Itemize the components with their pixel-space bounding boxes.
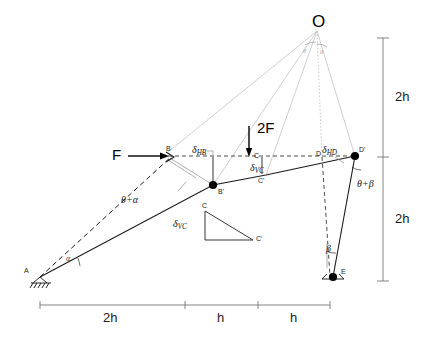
displacement-label-delta-HD: δHD: [322, 145, 337, 157]
force-label-2F: 2F: [257, 120, 275, 135]
member-Dprime-E: [333, 156, 355, 277]
force-F-group: [128, 153, 169, 160]
dim-right-label-0: 2h: [395, 90, 409, 103]
node-dot-Dprime: [351, 152, 359, 160]
node-dot-Bprime: [209, 181, 217, 189]
node-label-E: E: [341, 268, 346, 275]
node-label-Dprime: D': [359, 146, 365, 153]
dim-bottom-label-2: h: [290, 311, 297, 324]
diagram-svg: [0, 0, 427, 342]
inset-triangle: [205, 211, 253, 240]
inset-label-C: C: [202, 202, 207, 209]
dimension-right: [377, 38, 389, 281]
arc-alpha-at-A: [78, 258, 80, 266]
dimension-bottom: [40, 301, 330, 309]
deformed-geometry: [40, 156, 355, 277]
delta-VC-subscript: VC: [255, 167, 264, 175]
tick-delta-HB-a: [168, 160, 196, 178]
angle-label-alpha: α: [66, 255, 70, 263]
support-A-hatch-5: [46, 283, 49, 288]
node-label-O: O: [312, 13, 325, 30]
delta-HB-subscript: HB: [197, 149, 207, 157]
tick-theta-plus-alpha: [178, 182, 186, 191]
inset-label-delta-VC: δVC: [173, 219, 187, 231]
support-A-hatch-4: [42, 283, 45, 288]
arc-theta-left: [305, 42, 316, 45]
support-E-hatch-left: [322, 274, 327, 279]
angle-label-theta-plus-alpha: θ+α: [121, 195, 138, 205]
displacement-label-delta-HB: δHB: [192, 145, 206, 157]
ray-O-to-B: [168, 31, 317, 152]
inset-hypotenuse: [205, 211, 253, 240]
support-A-leg-left: [33, 277, 40, 283]
support-A: [30, 277, 51, 288]
figure-canvas: O θ θ F 2F B B' C C' D D' E A δHB δVC δH…: [0, 0, 427, 342]
support-A-hatch-3: [38, 283, 41, 288]
support-A-leg-right: [40, 277, 47, 283]
dim-right-label-1: 2h: [395, 212, 409, 225]
member-A-Bprime-Dprime: [40, 156, 355, 277]
member-D-E-original: [322, 157, 330, 276]
node-label-A: A: [24, 267, 29, 274]
force-2F-group: [246, 126, 252, 157]
node-dot-E: [329, 273, 337, 281]
ray-O-to-Cprime: [266, 31, 317, 175]
angle-label-beta: β: [326, 244, 331, 254]
dim-bottom-label-0: 2h: [103, 311, 117, 324]
node-label-Cprime: C': [258, 177, 264, 184]
support-A-hatch-2: [34, 283, 37, 288]
inset-delta-subscript: VC: [178, 223, 187, 231]
angle-label-theta-left: θ: [303, 48, 306, 55]
dim-bottom-label-1: h: [217, 311, 224, 324]
support-A-hatch-1: [30, 283, 33, 288]
angle-label-theta-right: θ: [320, 49, 323, 56]
connector-B-Bprime: [170, 158, 213, 185]
angle-label-theta-plus-beta: θ+β: [357, 179, 374, 189]
inset-label-Cprime: C': [256, 235, 262, 242]
node-label-C: C: [254, 152, 259, 159]
ray-O-to-Bprime: [213, 31, 317, 185]
displacement-label-delta-VC: δVC: [250, 163, 264, 175]
node-label-B: B: [166, 145, 171, 152]
delta-HD-subscript: HD: [327, 149, 337, 157]
member-A-B-original: [40, 156, 172, 277]
force-label-F: F: [112, 147, 121, 162]
node-label-Bprime: B': [218, 188, 224, 195]
node-label-D: D: [316, 150, 321, 157]
angle-arcs: [78, 167, 361, 268]
